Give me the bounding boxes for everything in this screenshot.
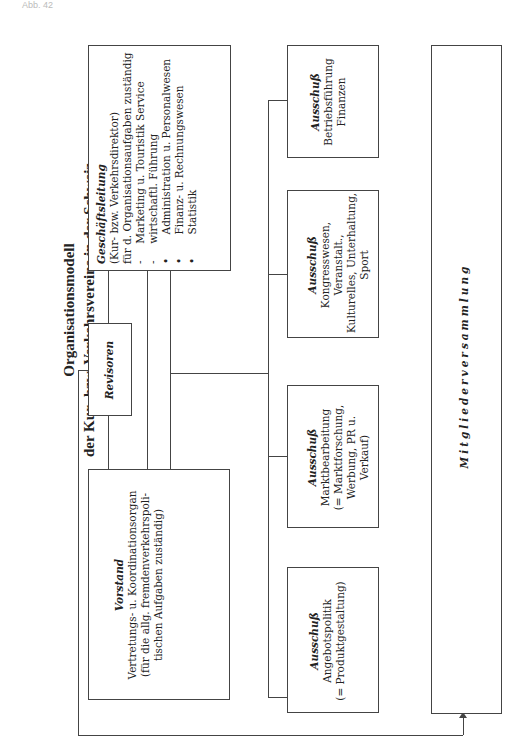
ausschuss-line: Angebotspolitik xyxy=(321,574,334,708)
feedback-line-vertical xyxy=(78,370,79,735)
vorstand-line: Vertretungs- u. Koordinationsorgan xyxy=(126,476,139,694)
connector-gl-vorstand-1 xyxy=(147,270,148,469)
ausschuss-line: Veranstalt., xyxy=(332,197,345,333)
title-line-1: Organisationsmodell xyxy=(60,200,78,420)
feedback-line-up xyxy=(463,715,464,735)
gl-line: • Administration u. Personalwesen xyxy=(160,53,173,264)
heading-ausschuss: Ausschuß xyxy=(308,574,321,708)
ausschuss-line: Finanzen xyxy=(335,50,348,154)
connector-revisoren-loop-h xyxy=(78,370,88,371)
ausschuss-line: (= Produktgestaltung) xyxy=(334,574,347,708)
heading-mitgliederversammlung: Mitgliederversammlung xyxy=(458,206,470,526)
ausschuss-bus xyxy=(268,100,269,697)
stub-kongress xyxy=(268,274,287,275)
gl-line: - wirtschaftl. Führung xyxy=(147,53,160,264)
ausschuss-line: Werbung, PR u. xyxy=(345,392,358,523)
heading-ausschuss: Ausschuß xyxy=(306,392,319,523)
connector-to-ausschuss-bus xyxy=(170,373,268,374)
feedback-line-horizontal xyxy=(78,735,463,736)
gl-line: • Statistik xyxy=(186,53,199,264)
ausschuss-line: (= Marktforschung, xyxy=(332,392,345,523)
connector-gl-vorstand-2 xyxy=(170,270,171,469)
figure-label: Abb. 42 xyxy=(22,0,53,10)
box-revisoren: Revisoren xyxy=(88,323,132,416)
stub-angebot xyxy=(268,697,287,698)
stub-markt xyxy=(268,456,287,457)
box-mitgliederversammlung: Mitgliederversammlung xyxy=(431,45,502,714)
connector-gl-revisoren xyxy=(108,270,109,323)
ausschuss-line: Verkauf) xyxy=(358,392,371,523)
heading-revisoren: Revisoren xyxy=(103,331,116,409)
gl-line: • Finanz- u. Rechnungswesen xyxy=(173,53,186,264)
box-geschaeftsleitung: Geschäftsleitung (Kur- bzw. Verkehrsdire… xyxy=(88,45,231,271)
gl-line: für d. Organisationsaufgaben zuständig xyxy=(121,53,134,264)
gl-line: (Kur- bzw. Verkehrsdirektor) xyxy=(108,53,121,264)
box-ausschuss-angebotspolitik: Ausschuß Angebotspolitik (= Produktgesta… xyxy=(287,567,379,713)
ausschuss-line: Kulturelles, Unterhaltung, xyxy=(345,197,358,333)
gl-line: - Marketing u. Touristik Service xyxy=(134,53,147,264)
ausschuss-line: Kongresswesen, xyxy=(319,197,332,333)
heading-ausschuss: Ausschuß xyxy=(306,197,319,333)
connector-revisoren-vorstand xyxy=(108,415,109,469)
stub-betrieb xyxy=(268,100,287,101)
ausschuss-line: Marktbearbeitung xyxy=(319,392,332,523)
box-vorstand: Vorstand Vertretungs- u. Koordinationsor… xyxy=(88,469,230,700)
heading-ausschuss: Ausschuß xyxy=(309,50,322,154)
ausschuss-line: Betriebsführung xyxy=(322,50,335,154)
heading-geschaeftsleitung: Geschäftsleitung xyxy=(95,53,108,264)
box-ausschuss-kongress: Ausschuß Kongresswesen, Veranstalt., Kul… xyxy=(287,190,379,338)
box-ausschuss-betriebsfuehrung: Ausschuß Betriebsführung Finanzen xyxy=(287,45,379,158)
heading-vorstand: Vorstand xyxy=(113,476,126,694)
vorstand-line: tischen Aufgaben zuständig) xyxy=(152,476,165,694)
box-ausschuss-marktbearbeitung: Ausschuß Marktbearbeitung (= Marktforsch… xyxy=(287,385,379,528)
vorstand-line: (für die allg. fremdenverkehrspoli- xyxy=(139,476,152,694)
ausschuss-line: Sport xyxy=(358,197,371,333)
